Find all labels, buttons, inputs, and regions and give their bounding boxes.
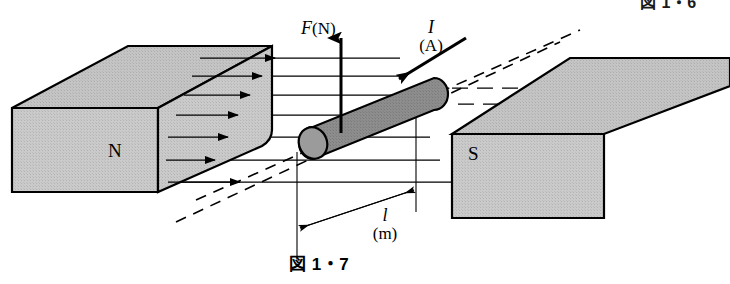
north-pole-label: N (108, 141, 122, 160)
current-label: I (A) (404, 18, 458, 55)
south-pole-label: S (468, 144, 479, 163)
current-carrying-conductor (294, 78, 448, 163)
current-symbol: I (404, 18, 458, 37)
current-unit: (A) (404, 37, 458, 55)
force-label: F(N) (301, 19, 336, 37)
force-symbol: F (301, 18, 312, 38)
figure-container: 図 1・6 N S F(N) I (A) l (m) 図 1・7 (0, 0, 730, 284)
length-symbol: l (358, 206, 412, 225)
length-unit: (m) (358, 225, 412, 243)
figure-caption: 図 1・7 (289, 256, 349, 273)
north-pole-magnet (12, 46, 272, 192)
south-pole-magnet (452, 58, 730, 218)
length-label: l (m) (358, 206, 412, 243)
force-unit: (N) (312, 19, 336, 38)
caption-above: 図 1・6 (640, 0, 697, 11)
